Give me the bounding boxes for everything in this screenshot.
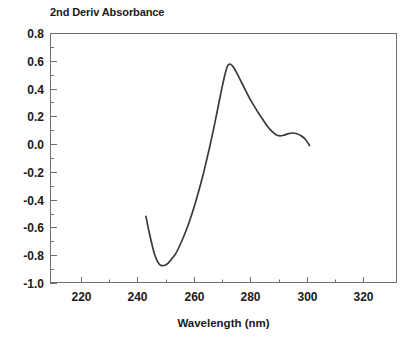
data-series-group [146, 64, 310, 266]
y-tick-label: -1.0 [23, 277, 44, 291]
x-tick-label: 240 [127, 290, 147, 304]
y-axis-ticks [50, 34, 57, 284]
chart-plot-area: 220240260280300320 -1.0-0.8-0.6-0.4-0.20… [0, 0, 419, 344]
y-tick-label: -0.6 [23, 221, 44, 235]
x-tick-label: 300 [297, 290, 317, 304]
x-tick-label: 220 [71, 290, 91, 304]
y-tick-label: 0.8 [27, 27, 44, 41]
chart-container: 2nd Deriv Absorbance 220240260280300320 … [0, 0, 419, 344]
x-axis-label: Wavelength (nm) [177, 317, 269, 329]
plot-frame [51, 34, 397, 283]
y-tick-label: 0.6 [27, 55, 44, 69]
x-tick-label: 280 [240, 290, 260, 304]
x-axis-tick-labels: 220240260280300320 [71, 290, 373, 304]
y-tick-label: 0.0 [27, 138, 44, 152]
y-tick-label: 0.4 [27, 83, 44, 97]
data-curve [146, 64, 310, 266]
y-tick-label: 0.2 [27, 110, 44, 124]
y-tick-label: -0.8 [23, 249, 44, 263]
x-tick-label: 260 [184, 290, 204, 304]
y-tick-label: -0.4 [23, 194, 44, 208]
y-axis-tick-labels: -1.0-0.8-0.6-0.4-0.20.00.20.40.60.8 [23, 27, 44, 291]
x-tick-label: 320 [353, 290, 373, 304]
y-tick-label: -0.2 [23, 166, 44, 180]
